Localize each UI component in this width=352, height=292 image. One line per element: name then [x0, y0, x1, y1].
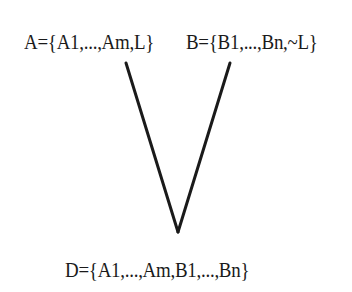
- edge-b-to-d: [178, 63, 230, 232]
- resolvent-d-label: D={A1,...,Am,B1,...,Bn}: [65, 257, 249, 283]
- edge-a-to-d: [126, 63, 178, 232]
- resolution-edges: [0, 0, 352, 292]
